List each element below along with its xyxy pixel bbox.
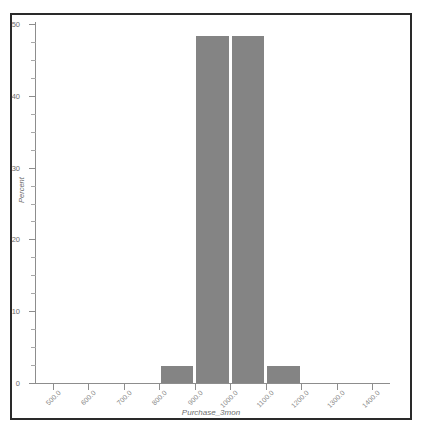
y-minor-tick (31, 275, 36, 276)
y-tick (29, 24, 36, 25)
x-axis-title: Purchase_3mon (12, 408, 410, 417)
y-minor-tick (31, 132, 36, 133)
x-tick (337, 384, 338, 390)
bar (161, 366, 194, 383)
x-tick-label: 600.0 (80, 389, 97, 406)
x-tick (124, 384, 125, 390)
y-minor-tick (31, 257, 36, 258)
y-tick-label: 10 (0, 307, 20, 316)
x-tick (195, 384, 196, 390)
chart-screenshot: 01020304050 500.0600.0700.0800.0900.0100… (0, 0, 427, 433)
x-tick-label: 700.0 (115, 389, 132, 406)
x-tick (53, 384, 54, 390)
y-minor-tick (31, 150, 36, 151)
y-tick (29, 383, 36, 384)
x-tick-label: 1400.0 (361, 389, 381, 409)
y-minor-tick (31, 78, 36, 79)
x-tick-label: 1000.0 (219, 389, 239, 409)
bar (267, 366, 300, 383)
x-tick-label: 900.0 (186, 389, 203, 406)
x-tick (159, 384, 160, 390)
x-tick (88, 384, 89, 390)
plot-canvas: 01020304050 500.0600.0700.0800.0900.0100… (12, 15, 410, 418)
x-tick-label: 800.0 (151, 389, 168, 406)
y-tick (29, 239, 36, 240)
y-minor-tick (31, 186, 36, 187)
y-minor-tick (31, 293, 36, 294)
x-tick-label: 1100.0 (255, 389, 275, 409)
y-minor-tick (31, 365, 36, 366)
x-tick (266, 384, 267, 390)
y-axis-title: Percent (17, 177, 26, 203)
bar (232, 36, 265, 383)
x-tick (301, 384, 302, 390)
x-tick-label: 500.0 (44, 389, 61, 406)
y-minor-tick (31, 329, 36, 330)
y-minor-tick (31, 221, 36, 222)
y-tick (29, 96, 36, 97)
y-minor-tick (31, 114, 36, 115)
x-tick (372, 384, 373, 390)
y-tick (29, 168, 36, 169)
x-tick-label: 1300.0 (326, 389, 346, 409)
x-tick (230, 384, 231, 390)
y-minor-tick (31, 60, 36, 61)
y-minor-tick (31, 42, 36, 43)
y-minor-tick (31, 347, 36, 348)
y-tick-label: 40 (0, 91, 20, 100)
y-tick-label: 20 (0, 235, 20, 244)
y-tick-label: 30 (0, 163, 20, 172)
graph-frame: 01020304050 500.0600.0700.0800.0900.0100… (10, 13, 412, 420)
clipped-top-text (0, 0, 427, 11)
y-minor-tick (31, 204, 36, 205)
x-tick-label: 1200.0 (290, 389, 310, 409)
y-tick-label: 50 (0, 20, 20, 29)
y-tick (29, 311, 36, 312)
y-tick-label: 0 (0, 379, 20, 388)
bar (196, 36, 229, 383)
